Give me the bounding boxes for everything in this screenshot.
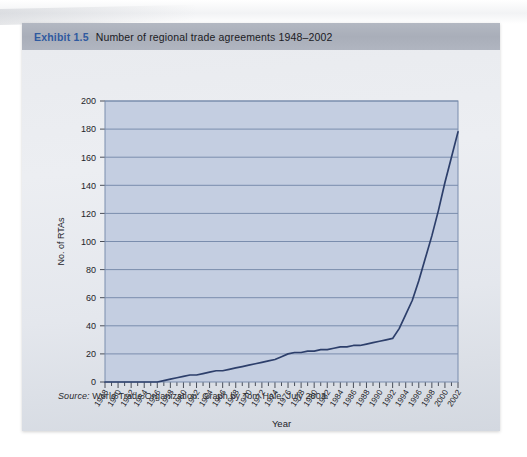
exhibit-header: Exhibit 1.5 Number of regional trade agr… bbox=[22, 23, 500, 50]
source-text: World Trade Organization. Graph by Tom H… bbox=[90, 391, 329, 401]
x-tick-label: 2002 bbox=[446, 388, 464, 409]
y-tick-label: 140 bbox=[81, 181, 96, 191]
y-tick-label: 180 bbox=[81, 124, 96, 134]
y-axis-ticks: 020406080100120140160180200 bbox=[81, 96, 105, 387]
y-tick-label: 160 bbox=[81, 153, 96, 163]
y-axis-title: No. of RTAs bbox=[56, 217, 66, 266]
y-tick-label: 60 bbox=[86, 293, 96, 303]
scan-shadow-diagonal bbox=[0, 3, 280, 25]
chart-container: 020406080100120140160180200 194819501952… bbox=[22, 50, 500, 431]
x-axis-title-text: Year bbox=[272, 418, 291, 429]
source-label: Source: bbox=[58, 391, 90, 401]
exhibit-title: Number of regional trade agreements 1948… bbox=[96, 31, 333, 43]
y-tick-label: 200 bbox=[81, 96, 96, 106]
y-tick-label: 120 bbox=[81, 209, 96, 219]
exhibit-body: 020406080100120140160180200 194819501952… bbox=[22, 50, 500, 431]
y-tick-label: 20 bbox=[86, 349, 96, 359]
y-tick-label: 0 bbox=[91, 377, 96, 387]
y-tick-label: 80 bbox=[86, 265, 96, 275]
y-tick-label: 40 bbox=[86, 321, 96, 331]
y-axis-title-text: No. of RTAs bbox=[56, 217, 66, 266]
source-note: Source: World Trade Organization. Graph … bbox=[58, 391, 329, 401]
x-axis-title: Year bbox=[272, 418, 291, 429]
scan-shadow-top bbox=[0, 0, 527, 24]
rtas-line-chart: 020406080100120140160180200 194819501952… bbox=[22, 50, 500, 431]
exhibit-card: Exhibit 1.5 Number of regional trade agr… bbox=[22, 23, 500, 431]
exhibit-number: Exhibit 1.5 bbox=[34, 31, 89, 43]
y-tick-label: 100 bbox=[81, 237, 96, 247]
